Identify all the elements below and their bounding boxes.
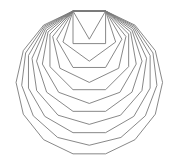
polygon-group — [16, 11, 163, 154]
polygon-8-sides — [50, 11, 129, 90]
polygon-3-sides — [73, 11, 106, 39]
polygon-5-sides — [63, 11, 116, 61]
nested-polygons-diagram — [0, 0, 174, 163]
polygon-7-sides — [53, 11, 126, 82]
